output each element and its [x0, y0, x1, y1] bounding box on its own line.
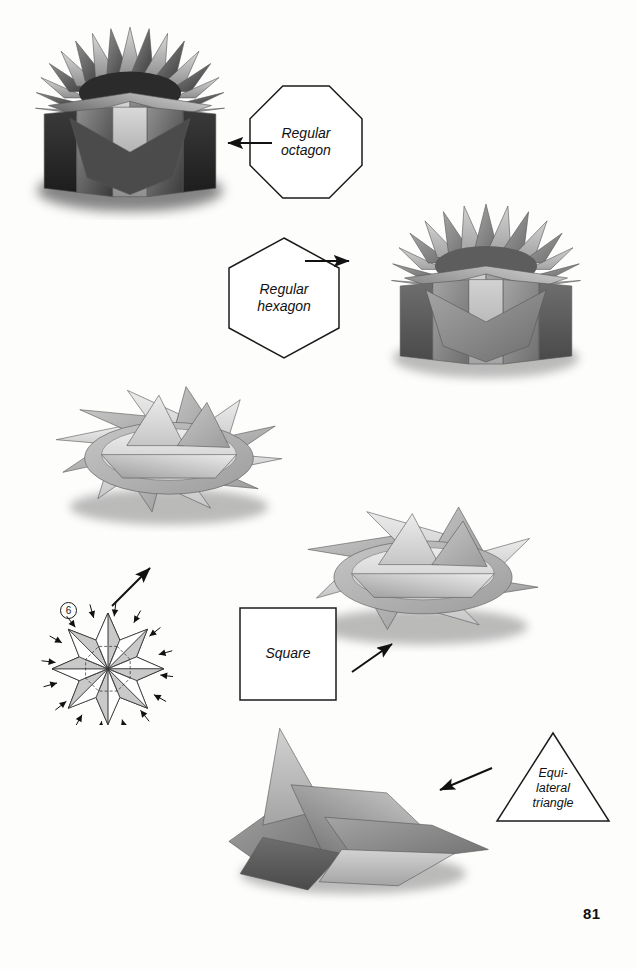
- arrow-to-square-box: [352, 644, 392, 672]
- arrow-to-triangle-box: [440, 768, 492, 790]
- page-number: 81: [583, 905, 601, 922]
- step-6-star-diagram: [18, 600, 173, 725]
- book-page: 6 Regular octagon Regular hexagon Square…: [0, 0, 637, 969]
- step-6-diagram: [18, 600, 173, 725]
- arrows-layer: [0, 0, 637, 969]
- step-number-badge: 6: [60, 602, 77, 619]
